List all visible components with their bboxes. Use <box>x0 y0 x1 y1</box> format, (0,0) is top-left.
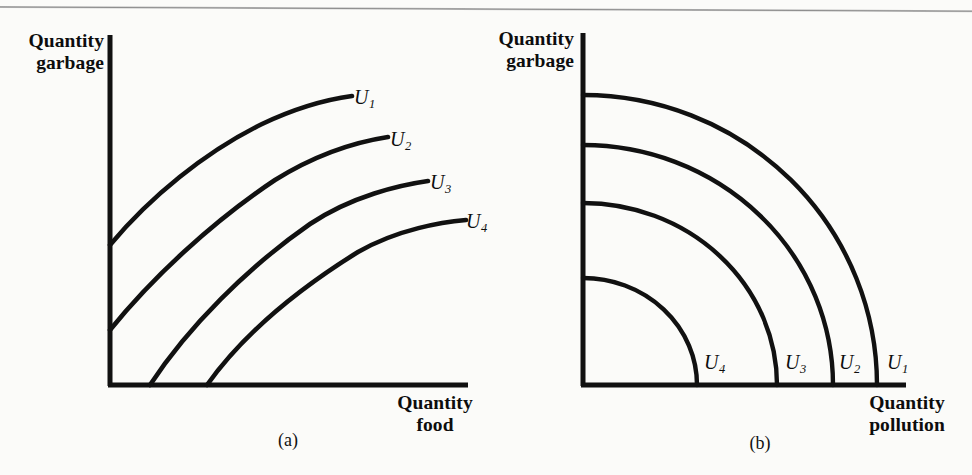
curve-label-u2: U2 <box>390 128 411 151</box>
panel-a-y-axis-label: Quantity garbage <box>8 30 104 74</box>
curve-label-u3: U3 <box>430 171 451 194</box>
curve-label-u2-base: U <box>390 128 404 150</box>
curve-label-u3-base: U <box>785 351 799 373</box>
panel-a-caption: (a) <box>248 430 328 451</box>
curve-u2 <box>583 145 833 385</box>
figure-container: Quantity garbage Quantity food U1 U2 U3 … <box>0 0 972 475</box>
curve-u1 <box>583 95 877 385</box>
curve-u2 <box>110 137 388 330</box>
curve-u3 <box>150 181 428 385</box>
curve-u3 <box>583 203 777 385</box>
curve-label-u2-subscript: 2 <box>405 139 411 153</box>
curve-label-u1-subscript: 1 <box>369 97 375 111</box>
curve-label-u2: U2 <box>839 351 860 374</box>
curve-label-u4-base: U <box>466 210 480 232</box>
curve-u4 <box>583 278 697 385</box>
panel-a-x-axis-label: Quantity food <box>380 392 490 436</box>
curve-label-u3: U3 <box>785 351 806 374</box>
panel-b-x-axis-label: Quantity pollution <box>846 392 968 436</box>
curve-label-u3-subscript: 3 <box>445 182 451 196</box>
curve-label-u2-subscript: 2 <box>854 362 860 376</box>
curve-label-u1-subscript: 1 <box>902 362 908 376</box>
panel-b-caption: (b) <box>720 433 800 454</box>
curve-label-u4-subscript: 4 <box>719 362 725 376</box>
curve-label-u1-base: U <box>887 351 901 373</box>
curve-label-u3-subscript: 3 <box>800 362 806 376</box>
curve-label-u1: U1 <box>354 86 375 109</box>
curve-label-u4: U4 <box>704 351 725 374</box>
curve-label-u1: U1 <box>887 351 908 374</box>
curve-u4 <box>207 220 466 385</box>
curve-label-u2-base: U <box>839 351 853 373</box>
curve-label-u3-base: U <box>430 171 444 193</box>
panel-b-y-axis-label: Quantity garbage <box>478 28 574 72</box>
curve-label-u4-base: U <box>704 351 718 373</box>
panel-b: Quantity garbage Quantity pollution U4 U… <box>486 0 972 475</box>
curve-label-u4: U4 <box>466 210 487 233</box>
curve-label-u1-base: U <box>354 86 368 108</box>
panel-a: Quantity garbage Quantity food U1 U2 U3 … <box>0 0 486 475</box>
